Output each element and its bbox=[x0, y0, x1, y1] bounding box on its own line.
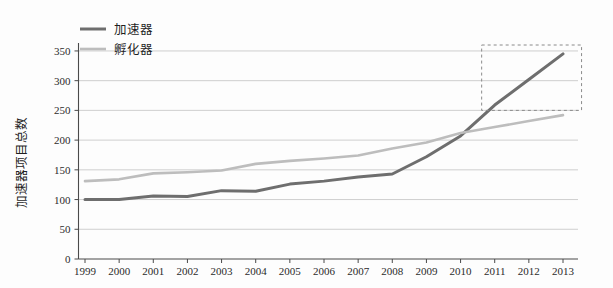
line-chart: 050100150200250300350 199920002001200220… bbox=[0, 0, 613, 288]
x-tick-label: 2009 bbox=[415, 265, 438, 277]
x-tick-label: 2010 bbox=[450, 265, 473, 277]
chart-background bbox=[0, 0, 613, 288]
y-tick-label: 50 bbox=[60, 223, 72, 235]
legend-label: 加速器 bbox=[114, 23, 153, 37]
x-tick-label: 2001 bbox=[142, 265, 164, 277]
x-tick-labels: 1999200020012002200320042005200620072008… bbox=[74, 265, 575, 277]
x-tick-label: 2002 bbox=[176, 265, 198, 277]
x-tick-label: 2007 bbox=[347, 265, 370, 277]
legend-label: 孵化器 bbox=[114, 43, 153, 57]
x-tick-label: 2003 bbox=[211, 265, 234, 277]
x-tick-label: 2013 bbox=[552, 265, 575, 277]
x-tick-label: 2004 bbox=[245, 265, 268, 277]
x-tick-label: 2000 bbox=[108, 265, 131, 277]
y-tick-label: 200 bbox=[54, 134, 71, 146]
y-tick-label: 0 bbox=[65, 253, 71, 265]
y-axis-title: 加速器项目总数 bbox=[14, 117, 29, 208]
y-tick-label: 350 bbox=[54, 45, 71, 57]
chart-figure: 050100150200250300350 199920002001200220… bbox=[0, 0, 613, 288]
y-tick-label: 300 bbox=[54, 75, 71, 87]
x-tick-label: 1999 bbox=[74, 265, 97, 277]
x-tick-label: 2008 bbox=[381, 265, 404, 277]
y-tick-label: 100 bbox=[54, 194, 71, 206]
y-tick-label: 250 bbox=[54, 104, 71, 116]
x-tick-label: 2005 bbox=[279, 265, 302, 277]
x-tick-label: 2006 bbox=[313, 265, 336, 277]
x-tick-label: 2012 bbox=[518, 265, 540, 277]
x-tick-label: 2011 bbox=[484, 265, 506, 277]
y-tick-label: 150 bbox=[54, 164, 71, 176]
